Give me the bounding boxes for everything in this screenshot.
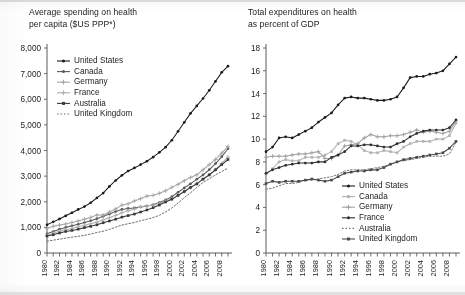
data-point (455, 140, 458, 143)
x-tick-label: 2002 (403, 260, 412, 276)
data-point (208, 168, 211, 171)
data-point (415, 132, 418, 135)
data-point (83, 205, 86, 208)
x-tick-label: 1982 (272, 260, 281, 276)
data-point (317, 156, 320, 159)
data-point (114, 179, 117, 182)
data-point (382, 135, 386, 139)
data-point (114, 213, 118, 217)
legend-item-united-states: United States (57, 56, 123, 65)
data-point (278, 161, 281, 164)
data-point (356, 97, 359, 100)
y-tick-label: 2 (255, 226, 260, 235)
y-tick-label: 3,000 (21, 172, 42, 181)
x-tick-label: 1990 (325, 260, 334, 276)
data-point (171, 198, 174, 201)
y-tick-label: 18 (251, 44, 261, 53)
data-point (114, 218, 117, 221)
data-point (71, 229, 74, 232)
data-point (409, 157, 412, 160)
legend-swatch-marker (347, 238, 350, 241)
data-point (214, 168, 217, 171)
data-point (297, 159, 300, 162)
data-point (265, 150, 268, 153)
chart-svg-left: 01,0002,0003,0004,0005,0006,0007,0008,00… (0, 0, 234, 295)
legend-swatch-marker (62, 102, 65, 105)
data-point (139, 205, 143, 209)
data-point (102, 192, 105, 195)
data-point (278, 166, 281, 169)
data-point (102, 221, 105, 224)
data-point (214, 80, 217, 83)
data-point (383, 166, 386, 169)
data-point (158, 151, 161, 154)
data-point (370, 169, 373, 172)
legend-item-united-states: United States (342, 181, 408, 190)
data-point (202, 178, 205, 181)
data-point (388, 134, 392, 138)
x-tick-label: 2000 (390, 260, 399, 276)
data-point (363, 97, 366, 100)
data-point (227, 158, 230, 161)
data-point (402, 146, 405, 149)
data-point (208, 174, 211, 177)
data-point (227, 65, 230, 68)
data-point (45, 226, 49, 230)
data-point (189, 112, 192, 115)
data-point (177, 191, 180, 194)
legend-swatch-marker (347, 195, 350, 198)
data-point (383, 146, 386, 149)
legend-item-canada: Canada (342, 192, 388, 201)
data-point (64, 222, 68, 226)
data-point (145, 194, 149, 198)
legend-item-canada: Canada (57, 67, 103, 76)
y-tick-label: 14 (251, 90, 261, 99)
x-tick-label: 2000 (165, 260, 174, 276)
x-tick-label: 1998 (377, 260, 386, 276)
data-point (195, 105, 198, 108)
data-point (448, 147, 451, 150)
data-point (127, 214, 130, 217)
data-point (409, 76, 412, 79)
data-point (46, 223, 49, 226)
legend-item-united-kingdom: United Kingdom (342, 234, 417, 243)
data-point (356, 145, 359, 148)
data-point (220, 71, 223, 74)
data-point (422, 130, 425, 133)
data-point (363, 149, 366, 152)
data-point (376, 145, 379, 148)
data-point (402, 140, 405, 143)
x-tick-label: 1980 (259, 260, 268, 276)
data-point (389, 98, 392, 101)
data-point (132, 199, 136, 203)
legend-label: Germany (74, 77, 109, 86)
y-tick-label: 4 (255, 203, 260, 212)
data-point (121, 208, 124, 211)
y-tick-label: 16 (251, 67, 261, 76)
data-point (317, 179, 320, 182)
data-point (146, 160, 149, 163)
data-point (337, 175, 340, 178)
data-point (324, 154, 327, 157)
data-point (343, 139, 346, 142)
data-point (52, 234, 55, 237)
data-point (291, 163, 294, 166)
x-tick-label: 1988 (311, 260, 320, 276)
y-tick-label: 6,000 (21, 95, 42, 104)
data-point (139, 163, 142, 166)
legend-label: United Kingdom (359, 234, 417, 243)
data-point (435, 72, 438, 75)
y-tick-label: 10 (251, 135, 261, 144)
data-point (77, 208, 80, 211)
data-point (284, 135, 287, 138)
x-tick-label: 1986 (77, 260, 86, 276)
data-point (170, 185, 174, 189)
data-point (375, 135, 379, 139)
data-point (428, 129, 431, 132)
data-point (183, 190, 186, 193)
data-point (441, 131, 445, 135)
data-point (396, 161, 399, 164)
x-tick-label: 1982 (52, 260, 61, 276)
data-point (442, 138, 445, 141)
legend-swatch-marker (61, 90, 66, 95)
